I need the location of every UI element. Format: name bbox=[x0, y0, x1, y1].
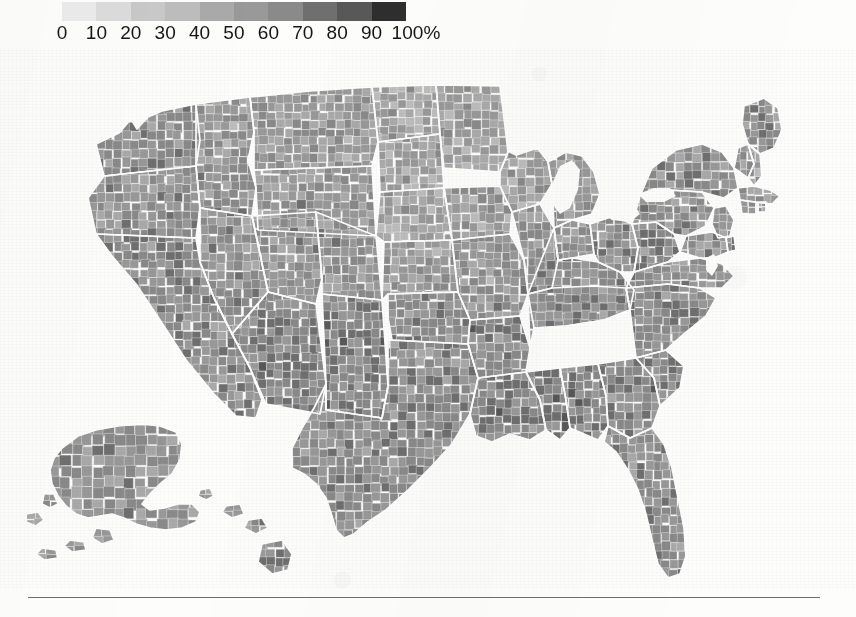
county bbox=[620, 497, 628, 507]
county bbox=[295, 278, 304, 287]
county bbox=[179, 486, 191, 496]
county bbox=[379, 143, 387, 152]
county bbox=[403, 158, 411, 167]
county bbox=[445, 85, 454, 93]
county bbox=[282, 336, 291, 345]
county bbox=[363, 438, 371, 447]
county bbox=[130, 321, 139, 331]
county bbox=[149, 148, 157, 158]
county bbox=[562, 262, 571, 270]
county bbox=[398, 402, 408, 411]
county bbox=[470, 465, 479, 475]
county bbox=[365, 246, 373, 254]
county bbox=[157, 366, 166, 375]
county bbox=[570, 330, 579, 340]
county bbox=[637, 470, 645, 480]
county bbox=[276, 161, 285, 169]
county bbox=[318, 519, 326, 528]
county bbox=[385, 216, 393, 225]
county bbox=[698, 213, 706, 220]
county bbox=[462, 221, 470, 229]
county bbox=[546, 312, 554, 321]
county bbox=[123, 508, 133, 519]
county bbox=[407, 403, 416, 412]
county bbox=[405, 117, 414, 126]
county bbox=[362, 87, 371, 96]
county bbox=[408, 438, 418, 448]
county bbox=[452, 476, 462, 485]
county bbox=[300, 136, 309, 145]
county bbox=[104, 103, 113, 113]
county bbox=[640, 247, 649, 256]
county bbox=[444, 146, 452, 155]
legend-swatch-60-70 bbox=[268, 2, 302, 21]
county bbox=[95, 270, 103, 278]
county bbox=[635, 332, 644, 340]
county bbox=[297, 200, 307, 209]
county bbox=[157, 436, 168, 447]
county bbox=[612, 498, 621, 508]
county bbox=[584, 414, 593, 422]
county bbox=[657, 206, 665, 213]
county bbox=[444, 130, 453, 139]
county bbox=[444, 120, 453, 130]
county bbox=[495, 423, 504, 433]
county bbox=[699, 300, 708, 309]
county bbox=[635, 299, 644, 307]
county bbox=[416, 357, 424, 366]
county bbox=[443, 376, 452, 384]
county bbox=[326, 492, 336, 501]
county bbox=[503, 334, 512, 343]
county bbox=[115, 313, 125, 323]
county bbox=[662, 426, 670, 435]
county bbox=[634, 420, 643, 429]
county bbox=[235, 410, 244, 418]
county bbox=[357, 273, 365, 282]
county bbox=[234, 297, 242, 307]
county bbox=[157, 486, 167, 496]
county bbox=[106, 219, 115, 228]
county bbox=[670, 318, 679, 326]
legend-tick-40: 40 bbox=[189, 22, 210, 44]
county bbox=[301, 431, 310, 440]
county bbox=[680, 349, 690, 358]
county bbox=[301, 456, 310, 466]
county bbox=[176, 382, 184, 391]
county bbox=[677, 444, 685, 454]
county bbox=[217, 253, 226, 263]
county bbox=[156, 287, 165, 296]
county bbox=[284, 103, 293, 112]
county bbox=[371, 520, 379, 528]
county bbox=[671, 309, 680, 318]
county bbox=[135, 435, 147, 446]
county bbox=[341, 185, 350, 193]
county bbox=[341, 192, 350, 201]
county bbox=[677, 471, 686, 480]
county bbox=[508, 177, 517, 185]
county bbox=[614, 248, 623, 256]
county bbox=[218, 408, 226, 417]
county bbox=[157, 259, 166, 267]
county bbox=[174, 140, 183, 149]
county bbox=[103, 486, 114, 497]
county bbox=[284, 388, 292, 396]
county bbox=[227, 357, 236, 366]
county bbox=[96, 366, 104, 374]
county bbox=[175, 242, 183, 251]
county bbox=[669, 551, 677, 559]
county bbox=[616, 366, 624, 376]
county bbox=[680, 342, 689, 350]
county bbox=[221, 191, 229, 199]
county bbox=[526, 194, 536, 202]
county bbox=[496, 399, 506, 408]
county bbox=[645, 434, 653, 443]
county bbox=[644, 561, 652, 571]
county bbox=[300, 371, 310, 380]
county bbox=[192, 338, 202, 347]
county bbox=[346, 365, 355, 374]
county bbox=[205, 190, 214, 198]
county bbox=[481, 101, 490, 110]
county bbox=[282, 378, 290, 387]
county bbox=[581, 294, 590, 302]
county bbox=[175, 149, 183, 158]
